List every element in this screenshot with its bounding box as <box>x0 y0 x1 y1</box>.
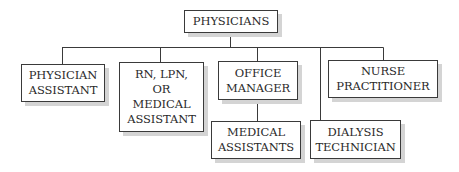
node-label: TECHNICIAN <box>315 140 395 155</box>
node-label: OFFICE <box>235 66 282 81</box>
node-dialysis-technician: DIALYSIS TECHNICIAN <box>310 120 401 159</box>
node-label: ASSISTANT <box>29 83 97 98</box>
node-label: MANAGER <box>226 81 290 96</box>
node-label: ASSISTANT <box>127 112 195 127</box>
org-chart: PHYSICIANS PHYSICIAN ASSISTANT RN, LPN, … <box>0 0 459 172</box>
node-office-manager: OFFICE MANAGER <box>218 61 298 100</box>
node-label: RN, LPN, <box>135 67 188 82</box>
node-label: DIALYSIS <box>327 125 383 140</box>
node-rn-lpn-medical-assistant: RN, LPN, OR MEDICAL ASSISTANT <box>119 62 204 132</box>
node-label: PHYSICIAN <box>29 68 98 83</box>
node-label: PRACTITIONER <box>336 79 429 94</box>
node-label: PHYSICIANS <box>193 14 269 29</box>
node-label: NURSE <box>361 64 405 79</box>
node-nurse-practitioner: NURSE PRACTITIONER <box>328 60 438 98</box>
node-label: ASSISTANTS <box>218 140 294 155</box>
node-physicians: PHYSICIANS <box>184 10 278 33</box>
node-physician-assistant: PHYSICIAN ASSISTANT <box>21 64 105 102</box>
node-medical-assistants: MEDICAL ASSISTANTS <box>211 121 301 159</box>
node-label: MEDICAL <box>133 97 191 112</box>
node-label: MEDICAL <box>227 125 285 140</box>
node-label: OR <box>153 82 171 97</box>
